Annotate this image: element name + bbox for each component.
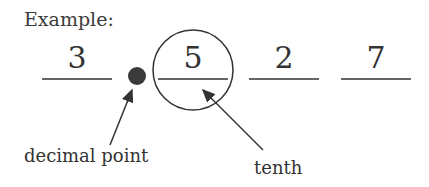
decimal-point-dot <box>128 67 146 85</box>
digit-thousandths: 7 <box>341 40 411 75</box>
tenth-label: tenth <box>254 157 302 178</box>
digit-tenths: 5 <box>158 40 228 75</box>
decimal-point-arrow <box>110 90 132 145</box>
decimal-point-label: decimal point <box>24 145 148 166</box>
digit-ones: 3 <box>42 40 112 75</box>
tenth-arrow <box>203 90 263 150</box>
digit-hundredths: 2 <box>249 40 319 75</box>
